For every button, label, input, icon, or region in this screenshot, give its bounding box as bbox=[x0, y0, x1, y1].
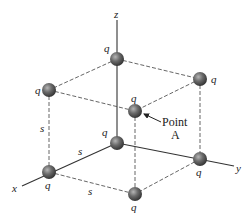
charge-label-z: q bbox=[104, 42, 110, 54]
charge-sphere-origin bbox=[110, 136, 124, 150]
edge-yz-xyz bbox=[135, 79, 200, 111]
edge-z-yz bbox=[117, 59, 200, 79]
charge-label-yz: q bbox=[211, 73, 217, 85]
x-axis bbox=[22, 143, 117, 186]
charge-label-y: q bbox=[196, 166, 202, 178]
charge-sphere-xy bbox=[128, 187, 142, 201]
x-axis-label: x bbox=[11, 182, 17, 194]
edge-y-xy bbox=[135, 159, 200, 194]
charge-sphere-y bbox=[193, 152, 207, 166]
charge-label-origin: q bbox=[102, 126, 108, 138]
charge-sphere-xz bbox=[42, 83, 56, 97]
z-axis-label: z bbox=[113, 8, 119, 20]
charge-sphere-z bbox=[110, 52, 124, 66]
y-axis-label: y bbox=[235, 162, 241, 174]
charge-label-xy: q bbox=[131, 201, 137, 213]
point-a-label-line2: A bbox=[171, 128, 180, 142]
charge-sphere-xyz-point-a bbox=[128, 104, 142, 118]
point-a-label-line1: Point bbox=[162, 115, 188, 129]
point-a-arrow bbox=[144, 114, 161, 122]
edge-label-vertical: s bbox=[40, 122, 44, 134]
charge-label-x: q bbox=[45, 179, 51, 191]
edge-xz-xyz bbox=[49, 90, 135, 111]
edge-label-bottom: s bbox=[88, 185, 92, 197]
charge-label-xyz: q bbox=[131, 92, 137, 104]
cube-charge-diagram: q q q q q q q q z x y s s s Point A bbox=[0, 0, 251, 221]
charge-sphere-yz bbox=[193, 72, 207, 86]
edge-z-xz bbox=[49, 59, 117, 90]
charge-label-xz: q bbox=[35, 84, 41, 96]
edge-label-x-edge: s bbox=[78, 145, 82, 157]
charge-sphere-x bbox=[42, 165, 56, 179]
